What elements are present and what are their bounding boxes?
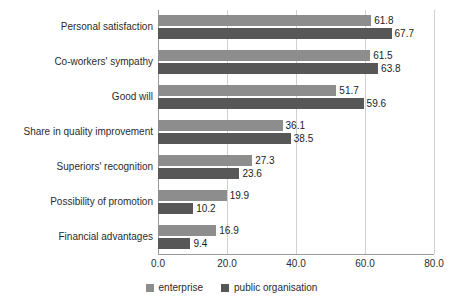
bar-value-label: 61.8 bbox=[374, 15, 393, 26]
gridline bbox=[227, 10, 228, 254]
bar-public-organisation bbox=[158, 168, 239, 179]
bar-value-label: 36.1 bbox=[286, 120, 305, 131]
bar-enterprise bbox=[158, 15, 371, 26]
legend-swatch-icon bbox=[221, 284, 229, 292]
bar-enterprise bbox=[158, 225, 216, 236]
x-tick-label: 40.0 bbox=[286, 258, 305, 269]
bar-public-organisation bbox=[158, 133, 291, 144]
chart-legend: enterprisepublic organisation bbox=[0, 282, 463, 293]
x-tick-label: 20.0 bbox=[217, 258, 236, 269]
bar-enterprise bbox=[158, 120, 283, 131]
gridline bbox=[365, 10, 366, 254]
bar-value-label: 27.3 bbox=[255, 155, 274, 166]
bar-value-label: 63.8 bbox=[381, 63, 400, 74]
category-label: Superiors' recognition bbox=[57, 162, 153, 172]
bar-public-organisation bbox=[158, 238, 190, 249]
legend-item[interactable]: enterprise bbox=[146, 282, 203, 293]
category-label: Co-workers' sympathy bbox=[54, 57, 153, 67]
bar-value-label: 10.2 bbox=[196, 203, 215, 214]
category-label: Share in quality improvement bbox=[23, 127, 153, 137]
plot-area: 61.867.761.563.851.759.636.138.527.323.6… bbox=[158, 10, 434, 254]
bar-value-label: 51.7 bbox=[339, 85, 358, 96]
x-tick-label: 80.0 bbox=[424, 258, 443, 269]
category-label: Financial advantages bbox=[58, 232, 153, 242]
x-tick-label: 0.0 bbox=[151, 258, 165, 269]
gridline bbox=[434, 10, 435, 254]
legend-label: enterprise bbox=[159, 282, 203, 293]
bar-public-organisation bbox=[158, 203, 193, 214]
bar-value-label: 59.6 bbox=[367, 98, 386, 109]
bar-value-label: 23.6 bbox=[242, 168, 261, 179]
category-label: Good will bbox=[112, 92, 153, 102]
legend-swatch-icon bbox=[146, 284, 154, 292]
x-axis-line bbox=[158, 254, 434, 255]
bar-enterprise bbox=[158, 85, 336, 96]
category-label: Possibility of promotion bbox=[50, 197, 153, 207]
x-tick-label: 60.0 bbox=[355, 258, 374, 269]
y-axis-line bbox=[158, 10, 159, 254]
bar-enterprise bbox=[158, 155, 252, 166]
bar-value-label: 67.7 bbox=[395, 28, 414, 39]
bar-public-organisation bbox=[158, 63, 378, 74]
bar-chart: 61.867.761.563.851.759.636.138.527.323.6… bbox=[0, 0, 463, 308]
bar-value-label: 9.4 bbox=[193, 238, 207, 249]
bar-public-organisation bbox=[158, 28, 392, 39]
category-label: Personal satisfaction bbox=[61, 22, 153, 32]
bar-enterprise bbox=[158, 190, 227, 201]
legend-item[interactable]: public organisation bbox=[221, 282, 317, 293]
bar-value-label: 61.5 bbox=[373, 50, 392, 61]
bar-value-label: 19.9 bbox=[230, 190, 249, 201]
bar-public-organisation bbox=[158, 98, 364, 109]
bar-value-label: 16.9 bbox=[219, 225, 238, 236]
legend-label: public organisation bbox=[234, 282, 317, 293]
gridline bbox=[296, 10, 297, 254]
bar-value-label: 38.5 bbox=[294, 133, 313, 144]
bar-enterprise bbox=[158, 50, 370, 61]
